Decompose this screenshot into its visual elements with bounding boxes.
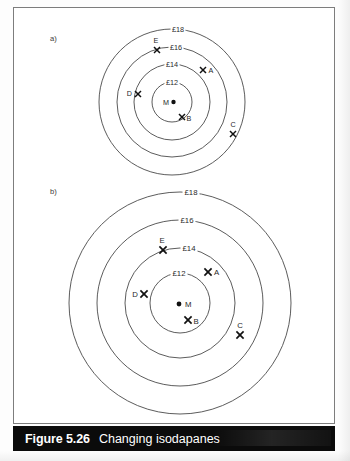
location-point-label-E: E: [154, 36, 159, 45]
market-centre-a: M: [163, 98, 176, 107]
location-point-b-B: B: [184, 316, 198, 325]
panel-b: b)£12£14£16£18ABCDEM: [50, 187, 291, 414]
panel-letter-b: b): [50, 187, 57, 196]
panel-a: a)£12£14£16£18ABCDEM: [50, 25, 245, 176]
location-point-label-E: E: [159, 236, 164, 245]
caption-scan-smudge: [213, 430, 331, 446]
location-point-b-D: D: [132, 290, 147, 299]
location-point-label-B: B: [187, 114, 192, 123]
figure-caption-bar: Figure 5.26 Changing isodapanes: [13, 426, 335, 451]
location-point-a-D: D: [127, 89, 141, 98]
isodapane-label-a-2: £16: [170, 43, 182, 52]
location-point-label-B: B: [194, 317, 199, 326]
location-point-label-C: C: [237, 321, 243, 330]
location-point-label-D: D: [132, 290, 138, 299]
location-point-label-A: A: [214, 268, 220, 277]
location-point-label-D: D: [127, 89, 132, 98]
market-centre-dot-icon: [177, 302, 182, 307]
market-centre-label: M: [163, 98, 169, 107]
location-point-a-B: B: [179, 114, 192, 123]
market-centre-label: M: [185, 300, 192, 309]
location-point-b-C: C: [236, 321, 243, 339]
panel-letter-a: a): [50, 34, 57, 43]
isodapane-label-a-1: £14: [166, 60, 178, 69]
market-centre-b: M: [177, 300, 192, 309]
location-point-label-A: A: [209, 66, 214, 75]
location-point-b-A: A: [204, 268, 220, 277]
figure-caption-title: Changing isodapanes: [99, 432, 220, 446]
market-centre-dot-icon: [171, 100, 175, 104]
location-point-b-E: E: [159, 236, 166, 254]
isodapane-label-a-0: £12: [166, 78, 178, 87]
figure-caption-number: Figure 5.26: [25, 432, 90, 446]
location-point-a-A: A: [200, 66, 214, 75]
location-point-label-C: C: [230, 120, 235, 129]
figure-page: a)£12£14£16£18ABCDEMb)£12£14£16£18ABCDEM…: [0, 0, 350, 461]
location-point-a-E: E: [154, 36, 160, 53]
isodapane-diagram: a)£12£14£16£18ABCDEMb)£12£14£16£18ABCDEM: [0, 0, 350, 461]
isodapane-label-b-1: £14: [182, 244, 196, 253]
isodapane-label-b-2: £16: [180, 216, 193, 225]
isodapane-label-b-3: £18: [184, 188, 197, 197]
isodapane-label-a-3: £18: [172, 25, 184, 34]
isodapane-label-b-0: £12: [172, 269, 185, 278]
location-point-a-C: C: [230, 120, 236, 137]
